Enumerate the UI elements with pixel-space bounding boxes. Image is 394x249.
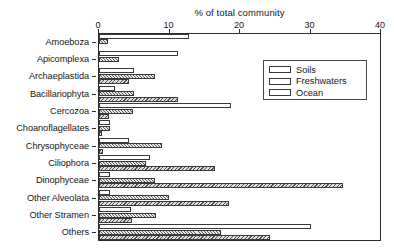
y-category-label: Bacillariophyta <box>30 89 89 99</box>
y-tick-mark <box>92 76 96 77</box>
bar-freshwaters-apicomplexa <box>99 57 119 62</box>
bar-ocean-other-alveolata <box>99 201 229 206</box>
bar-ocean-others <box>99 235 270 240</box>
legend-label-ocean: Ocean <box>296 88 323 98</box>
y-category-label: Other Alveolata <box>27 193 89 203</box>
y-category-label: Cercozoa <box>50 106 89 116</box>
y-tick-mark <box>92 232 96 233</box>
bar-ocean-archaeplastida <box>99 79 129 84</box>
bar-soils-archaeplastida <box>99 68 134 73</box>
y-tick-mark <box>92 42 96 43</box>
y-tick-mark <box>92 111 96 112</box>
bar-ocean-chrysophyceae <box>99 149 103 154</box>
bar-freshwaters-cercozoa <box>99 109 133 114</box>
bar-freshwaters-amoeboza <box>99 39 108 44</box>
bar-freshwaters-choanoflagellates <box>99 126 110 131</box>
y-tick-mark <box>92 163 96 164</box>
y-category-label: Other Stramen <box>29 210 89 220</box>
bar-soils-dinophyceae <box>99 172 110 177</box>
bar-freshwaters-bacillariophyta <box>99 91 134 96</box>
bar-soils-ciliophora <box>99 155 150 160</box>
y-axis-category-labels: AmoebozaApicomplexaArchaeplastidaBacilla… <box>0 33 96 241</box>
y-tick-mark <box>92 146 96 147</box>
legend-swatch-ocean-icon <box>269 89 291 96</box>
bar-freshwaters-dinophyceae <box>99 178 155 183</box>
chart-legend: Soils Freshwaters Ocean <box>263 60 367 100</box>
y-category-label: Archaeplastida <box>29 71 89 81</box>
y-category-label: Others <box>62 227 89 237</box>
y-tick-mark <box>92 59 96 60</box>
legend-item-ocean: Ocean <box>269 87 362 98</box>
bar-ocean-other-stramen <box>99 218 132 223</box>
bar-ocean-ciliophora <box>99 166 215 171</box>
y-tick-mark <box>92 215 96 216</box>
bar-ocean-cercozoa <box>99 114 109 119</box>
bar-freshwaters-chrysophyceae <box>99 143 162 148</box>
bar-soils-other-alveolata <box>99 190 110 195</box>
bar-freshwaters-others <box>99 230 221 235</box>
bar-soils-apicomplexa <box>99 51 178 56</box>
bar-ocean-bacillariophyta <box>99 97 178 102</box>
bar-freshwaters-other-alveolata <box>99 195 169 200</box>
bar-freshwaters-other-stramen <box>99 213 156 218</box>
y-category-label: Choanoflagellates <box>16 123 89 133</box>
bar-ocean-choanoflagellates <box>99 131 102 136</box>
legend-label-freshwaters: Freshwaters <box>296 76 347 86</box>
bar-freshwaters-ciliophora <box>99 161 146 166</box>
y-category-label: Chrysophyceae <box>26 141 89 151</box>
bar-ocean-dinophyceae <box>99 183 343 188</box>
y-tick-mark <box>92 128 96 129</box>
legend-item-freshwaters: Freshwaters <box>269 76 362 87</box>
legend-item-soils: Soils <box>269 64 362 75</box>
y-category-label: Ciliophora <box>48 158 89 168</box>
bar-soils-amoeboza <box>99 34 189 39</box>
y-tick-mark <box>92 180 96 181</box>
chart-title: % of total community <box>98 7 381 18</box>
legend-label-soils: Soils <box>296 65 316 75</box>
bar-soils-choanoflagellates <box>99 120 110 125</box>
horizontal-bar-chart: % of total community 010203040 AmoebozaA… <box>0 0 394 249</box>
bar-soils-cercozoa <box>99 103 231 108</box>
bar-soils-bacillariophyta <box>99 86 115 91</box>
bar-soils-other-stramen <box>99 207 131 212</box>
y-category-label: Dinophyceae <box>36 175 89 185</box>
bar-soils-others <box>99 224 311 229</box>
y-category-label: Amoeboza <box>45 37 89 47</box>
legend-swatch-soils-icon <box>269 66 291 73</box>
bar-soils-chrysophyceae <box>99 138 129 143</box>
y-tick-mark <box>92 94 96 95</box>
legend-swatch-freshwaters-icon <box>269 78 291 85</box>
y-tick-mark <box>92 198 96 199</box>
y-category-label: Apicomplexa <box>37 54 89 64</box>
bar-freshwaters-archaeplastida <box>99 74 155 79</box>
